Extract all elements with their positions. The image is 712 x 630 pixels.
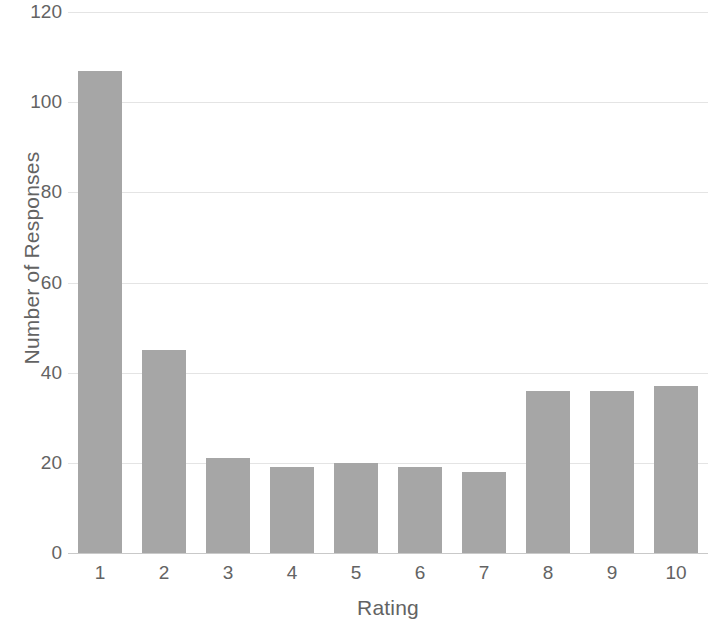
plot-area — [68, 12, 708, 553]
bar — [654, 386, 699, 553]
y-axis-tick-labels: 020406080100120 — [18, 0, 62, 630]
x-axis-line — [68, 553, 708, 554]
y-axis-tick-label: 20 — [18, 452, 62, 474]
y-axis-tick-label: 40 — [18, 362, 62, 384]
y-axis-tick-label: 80 — [18, 181, 62, 203]
x-axis-tick-label: 5 — [351, 562, 362, 584]
x-axis-tick-label: 6 — [415, 562, 426, 584]
bar — [206, 458, 251, 553]
y-axis-tick-label: 0 — [18, 542, 62, 564]
bar-chart: Number of Responses 020406080100120 1234… — [0, 0, 712, 630]
x-axis-tick-label: 4 — [287, 562, 298, 584]
x-axis-tick-label: 1 — [95, 562, 106, 584]
bar — [398, 467, 443, 553]
x-axis-tick-label: 7 — [479, 562, 490, 584]
x-axis-title: Rating — [68, 596, 708, 620]
bar — [142, 350, 187, 553]
bar — [462, 472, 507, 553]
bar — [526, 391, 571, 553]
bar — [590, 391, 635, 553]
bar — [270, 467, 315, 553]
y-axis-tick-label: 60 — [18, 272, 62, 294]
bar — [334, 463, 379, 553]
x-axis-tick-label: 10 — [665, 562, 686, 584]
x-axis-tick-label: 9 — [607, 562, 618, 584]
x-axis-tick-labels: 12345678910 — [68, 562, 708, 590]
bars-group — [68, 12, 708, 553]
x-axis-tick-label: 8 — [543, 562, 554, 584]
bar — [78, 71, 123, 553]
y-axis-tick-label: 100 — [18, 91, 62, 113]
y-axis-tick-label: 120 — [18, 1, 62, 23]
x-axis-tick-label: 3 — [223, 562, 234, 584]
x-axis-tick-label: 2 — [159, 562, 170, 584]
